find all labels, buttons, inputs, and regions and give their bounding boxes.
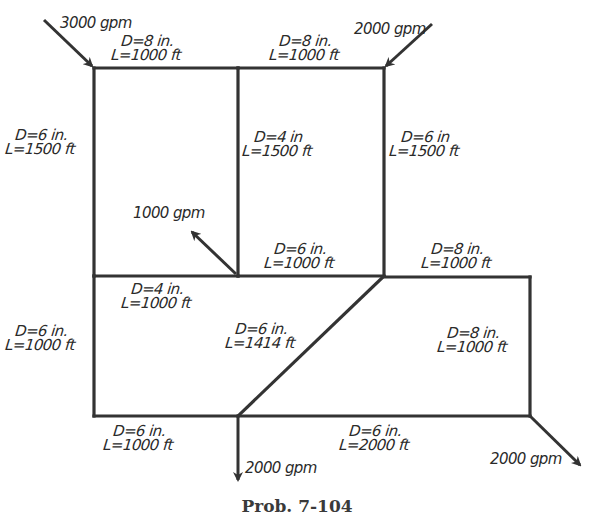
length: L=1000 ft <box>269 48 340 62</box>
length: L=1500 ft <box>242 144 313 158</box>
pipe-label-D-E: D=4 in. L=1000 ft <box>121 282 194 310</box>
pipe-label-B-C: D=8 in. L=1000 ft <box>269 34 342 62</box>
length: L=2000 ft <box>339 438 410 452</box>
length: L=1000 ft <box>437 340 508 354</box>
length: L=1000 ft <box>5 338 76 352</box>
pipe-label-I-J: D=6 in. L=2000 ft <box>339 424 412 452</box>
pipe-label-E-F: D=6 in. L=1000 ft <box>264 242 337 270</box>
pipe-label-A-B: D=8 in. L=1000 ft <box>111 34 184 62</box>
outflow-arrow-E <box>192 232 236 274</box>
pipe-label-B-E: D=4 in L=1500 ft <box>242 130 315 158</box>
flow-label-J: 2000 gpm <box>490 450 562 468</box>
length: L=1000 ft <box>121 296 192 310</box>
flow-label-C: 2000 gpm <box>354 20 426 38</box>
flow-label-E: 1000 gpm <box>133 204 205 222</box>
length: L=1000 ft <box>264 256 335 270</box>
pipe-label-F-G: D=8 in. L=1000 ft <box>421 242 494 270</box>
length: L=1000 ft <box>111 48 182 62</box>
length: L=1000 ft <box>103 438 174 452</box>
pipe-label-C-F: D=6 in L=1500 ft <box>389 130 462 158</box>
pipe-label-A-D: D=6 in. L=1500 ft <box>5 128 78 156</box>
flow-label-I: 2000 gpm <box>245 459 317 477</box>
pipe-label-F-I: D=6 in. L=1414 ft <box>225 322 298 350</box>
pipe-label-G-J: D=8 in. L=1000 ft <box>437 326 510 354</box>
length: L=1500 ft <box>5 142 76 156</box>
figure-caption: Prob. 7-104 <box>0 496 594 516</box>
pipe-label-D-H: D=6 in. L=1000 ft <box>5 324 78 352</box>
pipe-label-H-I: D=6 in. L=1000 ft <box>103 424 176 452</box>
length: L=1414 ft <box>225 336 296 350</box>
length: L=1500 ft <box>389 144 460 158</box>
flow-label-A: 3000 gpm <box>60 14 132 32</box>
length: L=1000 ft <box>421 256 492 270</box>
